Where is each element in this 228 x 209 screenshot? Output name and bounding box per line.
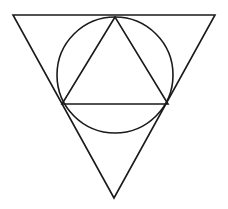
geometric-figure-canvas: Inverted triangle with inscribed circle … [0,0,228,209]
